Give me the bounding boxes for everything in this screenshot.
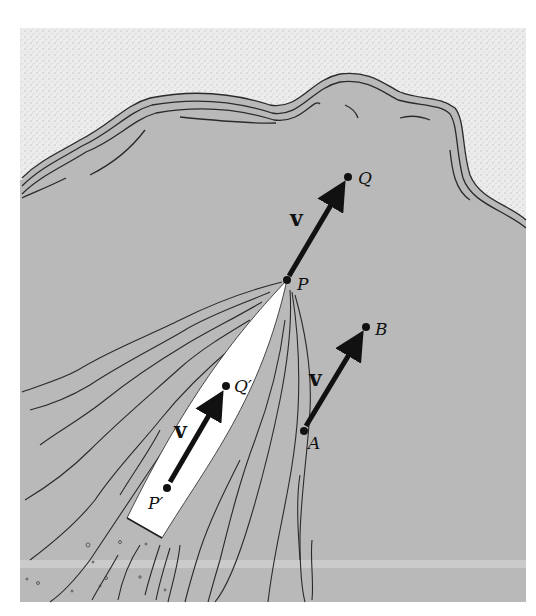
point-P <box>283 276 291 284</box>
label-v-boat: v <box>173 417 188 443</box>
point-Q-prime <box>222 382 230 390</box>
label-B: B <box>374 319 388 339</box>
label-v-AB: v <box>308 365 323 391</box>
label-P: P <box>296 274 309 294</box>
label-v-PQ: v <box>289 205 304 231</box>
label-Q-prime: Q′ <box>234 376 252 396</box>
point-P-prime <box>163 484 171 492</box>
point-A <box>300 427 308 435</box>
point-B <box>362 323 370 331</box>
point-Q <box>344 173 352 181</box>
label-P-prime: P′ <box>147 493 163 513</box>
translation-diagram: P Q v A B v P′ Q′ v <box>0 0 536 616</box>
label-A: A <box>306 433 320 453</box>
label-Q: Q <box>358 168 372 188</box>
